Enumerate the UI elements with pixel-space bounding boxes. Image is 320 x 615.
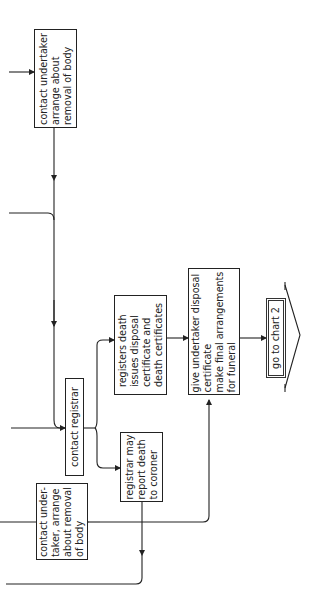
node-label: contact registrar [69,387,81,467]
node-registers-death: registers death issues disposal certific… [114,295,167,395]
node-label: contact under- taker, arrange about remo… [38,487,86,557]
node-contact-undertaker-top: contact undertaker arrange about removal… [34,29,77,128]
node-label: contact undertaker arrange about removal… [38,33,74,125]
node-contact-undertaker-left: contact under- taker, arrange about remo… [36,483,88,560]
node-label: registrar may report death to coroner [124,435,160,500]
node-contact-registrar: contact registrar [65,378,84,476]
node-give-undertaker-certificate: give undertaker disposal certificate mak… [188,268,240,395]
node-label: give undertaker disposal certificate mak… [190,271,238,392]
node-label: go to chart 2 [270,307,282,369]
node-go-to-chart-2: go to chart 2 [266,298,286,378]
node-label: registers death issues disposal certific… [117,303,165,387]
flowchart-canvas: contact undertaker arrange about removal… [0,0,320,615]
node-registrar-may-report: registrar may report death to coroner [120,432,163,502]
